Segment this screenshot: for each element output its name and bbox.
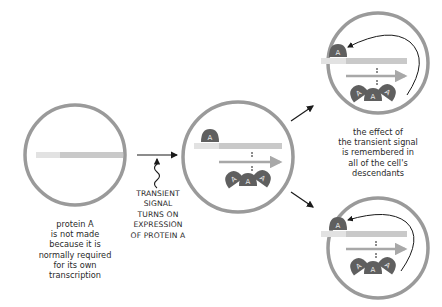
caption-line: transcription [20,270,130,280]
caption-signal: TRANSIENT SIGNAL TURNS ON EXPRESSION OF … [118,189,198,241]
signal-squiggle-icon [155,159,160,188]
caption-line: normally required [20,250,130,260]
cell-induced [183,102,293,212]
caption-line: SIGNAL [118,199,198,209]
caption-line: protein A [20,219,130,229]
division-arrow-bottom [291,192,313,207]
gene-a [321,58,407,64]
cell-membrane [183,102,293,212]
cell-descendant-top [321,13,428,113]
caption-line: the transient signal [318,137,438,147]
caption-line: is not made [20,229,130,239]
cell-descendant-bottom [321,198,428,298]
gene-a [194,143,282,149]
caption-line: OF PROTEIN A [118,231,198,241]
caption-left: protein A is not made because it is norm… [20,219,130,280]
gene-a [36,152,123,158]
caption-line: TRANSIENT [118,189,198,199]
caption-line: because it is [20,239,130,249]
caption-line: EXPRESSION [118,220,198,230]
caption-right: the effect of the transient signal is re… [318,127,438,178]
cell-initial [25,105,125,205]
caption-line: TURNS ON [118,210,198,220]
caption-line: the effect of [318,127,438,137]
caption-line: is remembered in [318,147,438,157]
division-arrow-top [291,106,313,121]
gene-a [321,231,407,237]
caption-line: descendants [318,168,438,178]
caption-line: for its own [20,260,130,270]
caption-line: all of the cell's [318,158,438,168]
